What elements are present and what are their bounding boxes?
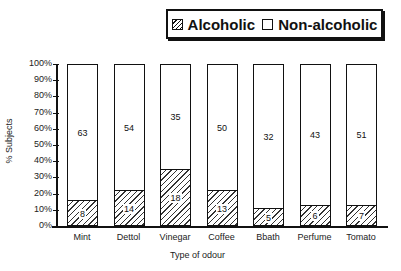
hatched-swatch-icon (172, 19, 183, 30)
bar-dettol: 1454 (114, 64, 145, 226)
alcoholic-value: 14 (115, 204, 144, 214)
x-axis-title: Type of odour (170, 250, 225, 260)
y-tick-mark (53, 177, 59, 178)
legend-non-alcoholic: Non-alcoholic (262, 16, 377, 33)
y-tick-label: 80% (22, 90, 52, 100)
bar-tomato: 751 (346, 64, 377, 226)
y-tick-mark (53, 194, 59, 195)
alcoholic-value: 6 (301, 211, 330, 221)
alcoholic-value: 8 (68, 209, 97, 219)
x-tick-label: Tomato (336, 232, 386, 242)
y-tick-label: 30% (22, 171, 52, 181)
y-tick-mark (53, 129, 59, 130)
y-tick-mark (53, 210, 59, 211)
y-tick-mark (53, 64, 59, 65)
y-tick-label: 10% (22, 204, 52, 214)
y-tick-mark (53, 161, 59, 162)
y-tick-mark (53, 113, 59, 114)
x-tick-label: Vinegar (150, 232, 200, 242)
x-tick-label: Perfume (290, 232, 340, 242)
legend: Alcoholic Non-alcoholic (166, 9, 383, 39)
non-alcoholic-value: 43 (301, 130, 330, 140)
non-alcoholic-value: 35 (161, 112, 190, 122)
bar-bbath: 532 (253, 64, 284, 226)
y-tick-mark (53, 96, 59, 97)
y-tick-mark (53, 145, 59, 146)
y-tick-label: 50% (22, 139, 52, 149)
non-alcoholic-value: 54 (115, 123, 144, 133)
y-tick-label: 60% (22, 123, 52, 133)
empty-swatch-icon (262, 19, 273, 30)
alcoholic-value: 13 (208, 204, 237, 214)
non-alcoholic-value: 63 (68, 128, 97, 138)
legend-alcoholic: Alcoholic (172, 16, 256, 33)
alcoholic-value: 7 (347, 211, 376, 221)
x-axis (52, 226, 388, 228)
bar-vinegar: 1835 (160, 64, 191, 226)
chart: Alcoholic Non-alcoholic % Subjects Type … (0, 0, 401, 271)
bar-coffee: 1350 (207, 64, 238, 226)
y-tick-mark (53, 80, 59, 81)
bar-perfume: 643 (300, 64, 331, 226)
y-axis-label: % Subjects (4, 118, 14, 163)
non-alcoholic-value: 32 (254, 132, 283, 142)
bar-mint: 863 (67, 64, 98, 226)
y-tick-label: 0% (22, 220, 52, 230)
y-tick-label: 100% (22, 58, 52, 68)
x-tick-label: Mint (57, 232, 107, 242)
x-tick-label: Bbath (243, 232, 293, 242)
alcoholic-value: 5 (254, 213, 283, 223)
non-alcoholic-value: 51 (347, 130, 376, 140)
x-tick-label: Coffee (197, 232, 247, 242)
y-tick-label: 40% (22, 155, 52, 165)
y-tick-mark (53, 226, 59, 227)
non-alcoholic-value: 50 (208, 123, 237, 133)
alcoholic-value: 18 (161, 193, 190, 203)
y-tick-label: 20% (22, 188, 52, 198)
y-tick-label: 70% (22, 107, 52, 117)
x-tick-label: Dettol (104, 232, 154, 242)
y-tick-label: 90% (22, 74, 52, 84)
